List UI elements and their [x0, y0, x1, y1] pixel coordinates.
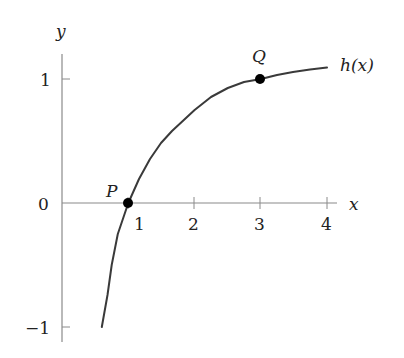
point-p [123, 198, 133, 208]
curve-h [102, 68, 327, 328]
x-tick-label-3: 3 [254, 214, 265, 234]
x-tick-label-1: 1 [134, 214, 145, 234]
point-q-label: Q [252, 46, 266, 66]
curve-label: h(x) [340, 55, 374, 75]
x-axis-label: x [349, 194, 359, 214]
chart-canvas: 1 2 3 4 1 0 −1 y x P Q h(x) [0, 0, 404, 358]
y-axis-label: y [55, 21, 66, 41]
x-tick-label-4: 4 [321, 214, 332, 234]
y-tick-label-minus1: −1 [25, 318, 50, 338]
x-tick-label-2: 2 [188, 214, 199, 234]
y-tick-label-0: 0 [38, 194, 49, 214]
point-p-label: P [105, 181, 118, 201]
y-tick-label-1: 1 [40, 70, 51, 90]
point-q [255, 74, 265, 84]
